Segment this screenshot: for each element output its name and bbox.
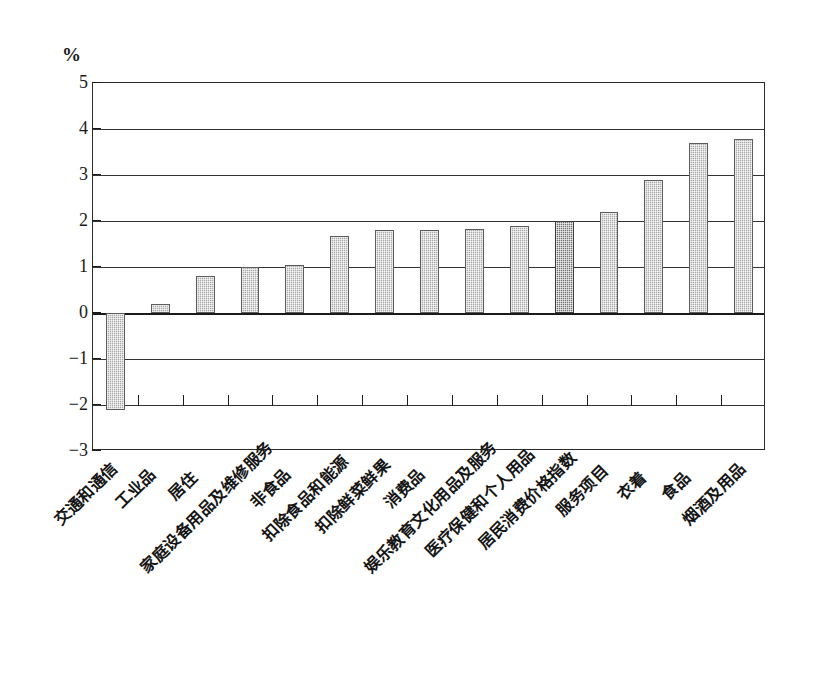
y-tick-label--2: −2: [54, 395, 88, 413]
y-axis-tick-labels: 543210−1−2−3: [44, 82, 88, 450]
x-category-label-8: 娱乐教育文化用品及服务: [358, 435, 501, 578]
gridline-4: [93, 129, 764, 130]
y-tick-label-5: 5: [54, 73, 88, 91]
bar-2: [196, 276, 215, 313]
bar-6: [375, 230, 394, 313]
x-category-label-14: 烟酒及用品: [676, 455, 750, 529]
y-tick-mark-5: [92, 82, 101, 83]
x-tick-5: [362, 395, 363, 406]
bar-9: [510, 226, 529, 313]
bar-0: [106, 313, 125, 410]
x-category-label-6: 扣除鲜菜鲜果: [309, 452, 395, 538]
x-category-label-9: 医疗保健和个人用品: [419, 442, 539, 562]
x-tick-0: [138, 395, 139, 406]
x-category-label-5: 扣除食品和能源: [256, 449, 353, 546]
bar-3: [241, 267, 260, 313]
gridline-0: [93, 313, 764, 315]
bar-14: [734, 139, 753, 313]
x-category-label-3: 家庭设备用品及维修服务: [134, 435, 277, 578]
y-tick-label--3: −3: [54, 441, 88, 459]
y-tick-label-1: 1: [54, 257, 88, 275]
bar-10: [555, 221, 574, 313]
x-category-label-13: 食品: [655, 465, 695, 505]
bar-7: [420, 230, 439, 313]
y-tick-mark-3: [92, 174, 101, 175]
x-tick-9: [542, 395, 543, 406]
y-tick-mark-1: [92, 266, 101, 267]
bar-11: [600, 212, 619, 313]
y-axis-unit-label: %: [62, 44, 81, 66]
y-tick-label-4: 4: [54, 119, 88, 137]
y-tick-mark--2: [92, 404, 101, 405]
x-tick-7: [452, 395, 453, 406]
x-category-label-4: 非食品: [244, 462, 295, 513]
x-tick-4: [317, 395, 318, 406]
x-category-label-1: 工业品: [109, 462, 160, 513]
x-category-label-12: 衣着: [611, 465, 651, 505]
bar-8: [465, 229, 484, 313]
y-tick-label-3: 3: [54, 165, 88, 183]
y-tick-mark--3: [92, 450, 101, 451]
x-tick-13: [721, 395, 722, 406]
y-tick-label-2: 2: [54, 211, 88, 229]
y-tick-label-0: 0: [54, 303, 88, 321]
x-category-label-10: 居民消费价格指数: [472, 445, 581, 554]
x-tick-11: [631, 395, 632, 406]
bar-chart-figure: % 543210−1−2−3 交通和通信工业品居住家庭设备用品及维修服务非食品扣…: [0, 0, 814, 684]
x-category-label-7: 消费品: [378, 462, 429, 513]
bar-13: [689, 143, 708, 313]
gridline-3: [93, 175, 764, 176]
x-tick-3: [272, 395, 273, 406]
x-category-label-2: 居住: [162, 465, 202, 505]
x-tick-1: [183, 395, 184, 406]
y-tick-mark-0: [92, 312, 101, 313]
plot-area: [92, 82, 765, 450]
y-tick-label--1: −1: [54, 349, 88, 367]
x-category-label-11: 服务项目: [550, 459, 613, 522]
bar-4: [285, 265, 304, 313]
bar-5: [330, 236, 349, 313]
x-tick-2: [228, 395, 229, 406]
gridline-2: [93, 221, 764, 222]
x-category-label-0: 交通和通信: [48, 455, 122, 529]
gridline--2: [93, 405, 764, 406]
x-tick-10: [587, 395, 588, 406]
y-tick-mark-2: [92, 220, 101, 221]
gridline--1: [93, 359, 764, 360]
x-tick-6: [407, 395, 408, 406]
x-tick-12: [676, 395, 677, 406]
bar-1: [151, 304, 170, 313]
bar-12: [644, 180, 663, 313]
x-tick-8: [497, 395, 498, 406]
y-tick-mark--1: [92, 358, 101, 359]
y-tick-mark-4: [92, 128, 101, 129]
